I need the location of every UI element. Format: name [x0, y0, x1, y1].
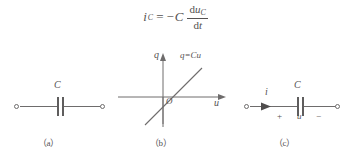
figure-c-polarity-negative: −	[316, 111, 321, 121]
formula-minus-sign: −	[166, 9, 173, 25]
figure-canvas: iC = − C duC dt C （a）	[0, 0, 351, 158]
figure-a-left-terminal	[14, 104, 19, 109]
figure-a: C （a）	[0, 78, 120, 148]
capacitor-current-formula: iC = − C duC dt	[0, 4, 351, 31]
formula-denominator-variable: t	[199, 19, 202, 31]
figure-b-u-axis-arrowhead	[218, 94, 226, 100]
figure-c-right-wire	[304, 106, 336, 107]
figure-b-q-axis-arrowhead	[160, 53, 166, 61]
formula-fraction-numerator: duC	[187, 4, 207, 18]
figure-a-right-wire	[64, 106, 101, 107]
figure-c-caption: （c）	[274, 136, 295, 149]
figure-c-polarity-positive: +	[277, 111, 282, 121]
figure-c-right-terminal	[335, 104, 340, 109]
figure-b-line-equation-label: q=Cu	[180, 50, 201, 60]
figure-b-u-axis-label: u	[214, 97, 219, 108]
formula-current-subscript: C	[148, 13, 153, 22]
formula-capacitance-symbol: C	[175, 9, 184, 25]
figure-c: C i + u − （c）	[232, 78, 351, 148]
formula-derivative-fraction: duC dt	[187, 4, 207, 31]
figure-a-left-wire	[20, 106, 57, 107]
figure-a-caption: （a）	[38, 136, 59, 149]
formula-current-symbol: i	[143, 9, 147, 25]
formula-equals: =	[156, 9, 163, 25]
figure-a-right-terminal	[100, 104, 105, 109]
figure-b-origin-label: O	[166, 96, 173, 106]
figure-b: q u O q=Cu （b）	[118, 52, 233, 148]
figure-a-plate-left	[57, 97, 59, 116]
figure-c-current-arrowhead	[261, 103, 271, 111]
figure-b-caption: （b）	[150, 136, 171, 149]
formula-numerator-subscript: C	[200, 8, 205, 17]
formula-fraction-denominator: dt	[191, 20, 204, 31]
figure-a-capacitor-label: C	[54, 79, 61, 90]
figure-c-voltage-label: u	[297, 111, 302, 121]
figure-b-q-axis-label: q	[154, 49, 159, 60]
